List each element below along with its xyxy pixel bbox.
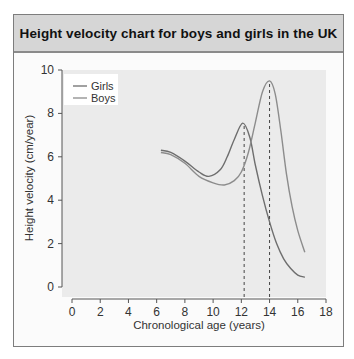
x-axis-label: Chronological age (years) <box>133 319 265 331</box>
y-ticks: 0246810 <box>41 63 62 294</box>
x-ticks: 024681012141618 <box>69 299 333 319</box>
height-velocity-chart: 0246810 024681012141618 Chronological ag… <box>0 0 354 359</box>
x-tick-label: 10 <box>206 305 220 319</box>
x-tick-label: 0 <box>69 305 76 319</box>
x-tick-label: 14 <box>263 305 277 319</box>
y-tick-label: 4 <box>47 193 54 207</box>
x-tick-label: 12 <box>235 305 249 319</box>
legend-label-boys: Boys <box>91 92 116 104</box>
x-tick-label: 6 <box>153 305 160 319</box>
x-tick-label: 2 <box>97 305 104 319</box>
legend: Girls Boys <box>64 74 118 105</box>
y-tick-label: 0 <box>47 280 54 294</box>
y-tick-label: 8 <box>47 106 54 120</box>
y-tick-label: 10 <box>41 63 55 77</box>
x-tick-label: 8 <box>182 305 189 319</box>
x-tick-label: 18 <box>319 305 333 319</box>
y-tick-label: 2 <box>47 237 54 251</box>
legend-label-girls: Girls <box>91 80 114 92</box>
x-tick-label: 4 <box>125 305 132 319</box>
y-axis-label: Height velocity (cm/year) <box>23 115 35 242</box>
x-tick-label: 16 <box>291 305 305 319</box>
y-tick-label: 6 <box>47 150 54 164</box>
